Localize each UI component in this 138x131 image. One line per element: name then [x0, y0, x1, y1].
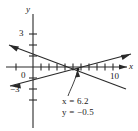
x-axis-label: x	[129, 62, 133, 71]
x-tick-label-10: 10	[110, 72, 119, 81]
x-axis-arrowhead	[119, 64, 127, 69]
annotation-x-value: x = 6.2	[62, 97, 94, 106]
origin-label: 0	[21, 71, 26, 80]
intersection-point	[77, 68, 80, 71]
descending-line-arrowhead-left	[9, 45, 19, 52]
y-tick-label-3: 3	[19, 29, 24, 38]
y-tick-label-negative-3: −3	[10, 85, 20, 94]
graph-figure: y x 3 −3 0 10 x = 6.2 y = −0.5	[0, 0, 138, 131]
ascending-line-arrowhead-right	[121, 54, 131, 60]
annotation-y-value: y = −0.5	[62, 108, 94, 117]
y-axis-label: y	[26, 5, 30, 14]
intersection-annotation: x = 6.2 y = −0.5	[62, 97, 94, 117]
